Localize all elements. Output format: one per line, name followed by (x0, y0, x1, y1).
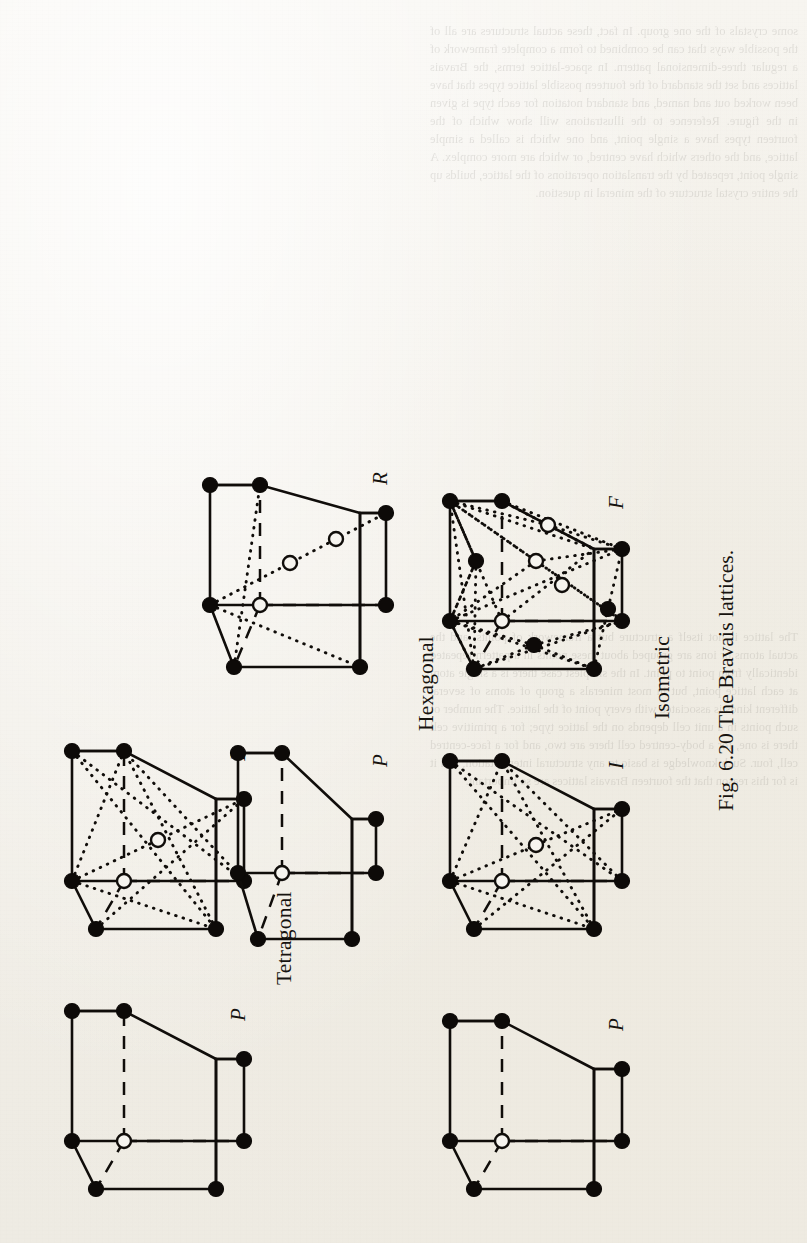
cell-symbol-hexagonal-p: P (368, 754, 393, 767)
cell-symbol-isometric-p: P (604, 1018, 629, 1031)
cell-symbol-isometric-f: F (604, 496, 629, 509)
cell-symbol-hexagonal-r: R (368, 472, 393, 485)
figure-cell-hexagonal-r (190, 453, 410, 683)
system-label-hexagonal: Hexagonal (414, 636, 439, 731)
cell-symbol-isometric-i: I (604, 762, 629, 769)
figure-caption: Fig. 6.20 The Bravais lattices. (714, 550, 739, 811)
cell-symbol-tetragonal-p: P (226, 1008, 251, 1021)
system-label-isometric: Isometric (650, 636, 675, 719)
rotated-figure-canvas: P (0, 0, 807, 1243)
figure-cell-isometric-i (430, 728, 645, 943)
